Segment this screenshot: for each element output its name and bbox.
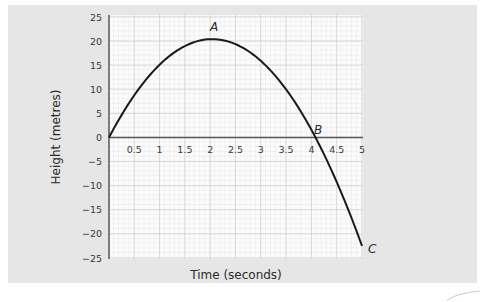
y-tick-label: −10 xyxy=(82,180,102,191)
x-tick-label: 0.5 xyxy=(127,144,142,155)
decorative-stroke xyxy=(447,291,480,300)
y-tick-label: −25 xyxy=(82,253,102,264)
point-c-label: C xyxy=(368,242,377,256)
point-a-label: A xyxy=(209,20,218,34)
x-tick-label: 3 xyxy=(258,144,264,155)
y-tick-label: 10 xyxy=(90,84,102,95)
y-tick-label: −5 xyxy=(88,156,102,167)
x-tick-label: 2 xyxy=(207,144,213,155)
y-tick-label: 25 xyxy=(90,12,102,23)
height-time-chart: 2520151050−5−10−15−20−25 0.511.522.533.5… xyxy=(0,0,483,302)
point-b-label: B xyxy=(314,123,322,137)
x-tick-label: 1 xyxy=(157,144,163,155)
x-tick-label: 5 xyxy=(359,144,365,155)
x-tick-label: 4.5 xyxy=(329,144,344,155)
y-tick-label: 0 xyxy=(96,132,102,143)
y-axis-label: Height (metres) xyxy=(49,90,63,185)
y-tick-label: −15 xyxy=(82,204,102,215)
y-tick-labels: 2520151050−5−10−15−20−25 xyxy=(82,12,102,264)
x-tick-label: 3.5 xyxy=(279,144,294,155)
x-tick-label: 1.5 xyxy=(177,144,192,155)
y-tick-label: −20 xyxy=(82,228,102,239)
y-tick-label: 15 xyxy=(90,60,102,71)
x-axis-label: Time (seconds) xyxy=(189,268,282,282)
y-tick-label: 20 xyxy=(90,36,102,47)
x-tick-label: 4 xyxy=(308,144,314,155)
y-tick-label: 5 xyxy=(96,108,102,119)
x-tick-label: 2.5 xyxy=(228,144,243,155)
